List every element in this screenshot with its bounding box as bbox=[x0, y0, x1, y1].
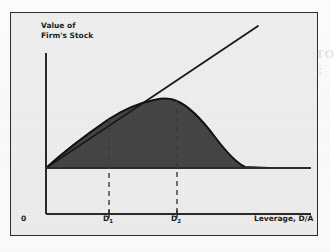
d1-tick-label: D1 bbox=[103, 214, 113, 225]
x-axis-label: Leverage, D/A bbox=[254, 214, 313, 224]
figure-frame: Value of Firm's Stock Leverage, D/A 0 D1… bbox=[10, 12, 318, 236]
y-axis-label: Value of Firm's Stock bbox=[41, 21, 93, 40]
origin-tick-label: 0 bbox=[21, 214, 26, 224]
firm-value-shaded-area bbox=[46, 99, 269, 168]
y-axis-label-line2: Firm's Stock bbox=[41, 31, 93, 41]
d2-tick-label: D2 bbox=[171, 214, 181, 225]
d1-tick-label-subscript: 1 bbox=[109, 218, 113, 224]
y-axis-label-line1: Value of bbox=[41, 21, 93, 31]
capital-structure-plot bbox=[11, 13, 317, 235]
d2-tick-label-subscript: 2 bbox=[177, 218, 181, 224]
